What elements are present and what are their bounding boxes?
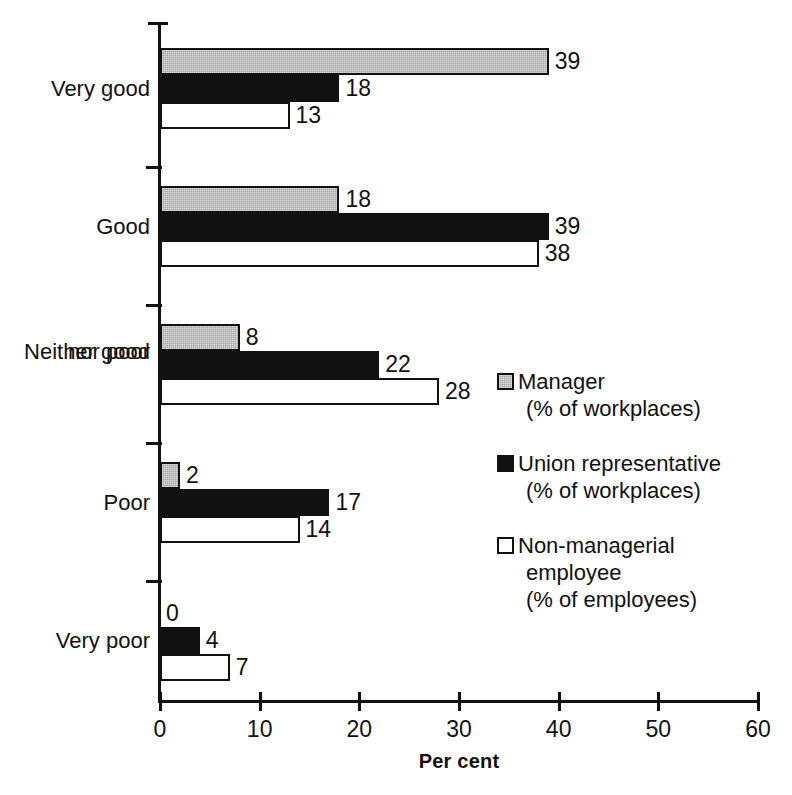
legend-sublabel-non-managerial-employee-2: employee xyxy=(526,559,777,586)
bar-value-label: 2 xyxy=(186,462,199,489)
bar-manager xyxy=(160,462,180,489)
bar-non-managerial-employee xyxy=(160,654,230,681)
bar-value-label: 8 xyxy=(246,324,259,351)
x-axis-tick-label: 30 xyxy=(429,716,489,743)
x-axis-tick xyxy=(657,692,660,711)
bar-value-label: 18 xyxy=(345,75,371,102)
bar-value-label: 14 xyxy=(306,516,332,543)
legend-label-non-managerial-employee: Non-managerial xyxy=(518,532,675,559)
bar-value-label: 39 xyxy=(555,48,581,75)
bar-non-managerial-employee xyxy=(160,240,539,267)
category-axis-tick xyxy=(146,166,162,169)
x-axis-title: Per cent xyxy=(160,750,758,773)
x-axis-tick-label: 10 xyxy=(230,716,290,743)
category-axis-cap xyxy=(148,22,168,25)
bar-value-label: 18 xyxy=(345,186,371,213)
legend-entry-non-managerial-employee: Non-managerial employee (% of employees) xyxy=(497,532,777,613)
bar-union-representative xyxy=(160,351,379,378)
x-axis-tick-label: 20 xyxy=(329,716,389,743)
x-axis-tick-label: 50 xyxy=(628,716,688,743)
x-axis-tick xyxy=(159,692,162,711)
legend-sublabel-non-managerial-employee: (% of employees) xyxy=(526,586,777,613)
bar-union-representative xyxy=(160,627,200,654)
category-axis-tick xyxy=(146,442,162,445)
bar-value-label: 38 xyxy=(545,240,571,267)
bar-value-label: 39 xyxy=(555,213,581,240)
category-label-line: Very good xyxy=(0,76,150,102)
bar-value-label: 4 xyxy=(206,627,219,654)
category-label-line: Good xyxy=(0,214,150,240)
bar-union-representative xyxy=(160,75,339,102)
category-label-line: Very poor xyxy=(0,628,150,654)
x-axis-tick-label: 60 xyxy=(728,716,788,743)
white-square-icon xyxy=(497,537,514,554)
category-label-line: nor poor xyxy=(0,339,150,365)
chart-legend: Manager (% of workplaces) Union represen… xyxy=(497,368,777,641)
grey-square-icon xyxy=(497,373,514,390)
legend-entry-manager: Manager (% of workplaces) xyxy=(497,368,777,422)
bar-manager xyxy=(160,324,240,351)
bar-value-label: 28 xyxy=(445,378,471,405)
legend-entry-union-representative: Union representative (% of workplaces) xyxy=(497,450,777,504)
bar-value-label: 22 xyxy=(385,351,411,378)
bar-value-label: 13 xyxy=(296,102,322,129)
category-axis-tick xyxy=(146,304,162,307)
bar-manager xyxy=(160,186,339,213)
legend-sublabel-union-representative: (% of workplaces) xyxy=(526,477,777,504)
x-axis-tick xyxy=(558,692,561,711)
legend-label-manager: Manager xyxy=(518,368,605,395)
bar-chart: 0102030405060 Very goodGoodNeither goodn… xyxy=(0,0,792,795)
x-axis-tick-label: 0 xyxy=(130,716,190,743)
bar-non-managerial-employee xyxy=(160,516,300,543)
x-axis-tick xyxy=(358,692,361,711)
x-axis-tick xyxy=(458,692,461,711)
category-axis-tick xyxy=(146,580,162,583)
bar-value-label: 0 xyxy=(166,600,179,627)
bar-union-representative xyxy=(160,489,329,516)
bar-union-representative xyxy=(160,213,549,240)
legend-sublabel-manager: (% of workplaces) xyxy=(526,395,777,422)
black-square-icon xyxy=(497,455,514,472)
x-axis-tick xyxy=(757,692,760,711)
bar-value-label: 7 xyxy=(236,654,249,681)
bar-non-managerial-employee xyxy=(160,102,290,129)
x-axis-tick xyxy=(259,692,262,711)
category-label-line: Poor xyxy=(0,490,150,516)
bar-manager xyxy=(160,48,549,75)
bar-non-managerial-employee xyxy=(160,378,439,405)
bar-value-label: 17 xyxy=(335,489,361,516)
x-axis-tick-label: 40 xyxy=(529,716,589,743)
legend-label-union-representative: Union representative xyxy=(518,450,721,477)
